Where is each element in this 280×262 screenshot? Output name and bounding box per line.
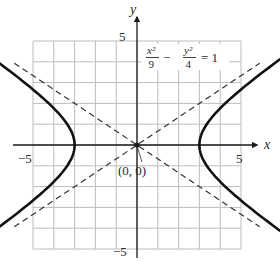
eq-operator: − — [163, 50, 170, 65]
y-tick-neg5: −5 — [113, 244, 127, 259]
y-axis-label: y — [128, 2, 137, 17]
center-label: (0, 0) — [118, 163, 146, 178]
y-tick-5: 5 — [119, 29, 126, 44]
eq-term1-numerator: x² — [146, 44, 156, 56]
x-axis-label: x — [263, 137, 271, 152]
eq-term1-denominator: 9 — [149, 58, 155, 70]
hyperbola-graph: y x 5 −5 −5 5 x² 9 − y² 4 = 1 (0, 0) — [0, 0, 280, 262]
x-tick-neg5: −5 — [18, 151, 32, 166]
x-tick-5: 5 — [236, 151, 243, 166]
eq-term2-numerator: y² — [183, 44, 193, 56]
eq-term2-denominator: 4 — [186, 58, 192, 70]
eq-rhs: = 1 — [201, 50, 218, 65]
